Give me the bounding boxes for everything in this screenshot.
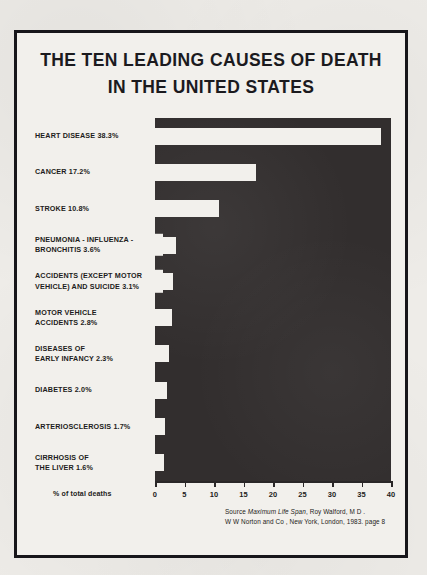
axis-tick-label: 35 (357, 490, 366, 499)
title-line-1: THE TEN LEADING CAUSES OF DEATH (40, 50, 382, 70)
axis-tick-label: 5 (182, 490, 186, 499)
category-label: ARTERIOSCLEROSIS 1.7% (35, 421, 165, 431)
category-label: DIABETES 2.0% (35, 385, 165, 395)
axis-tick-label: 15 (239, 490, 248, 499)
bar (155, 128, 381, 145)
axis-tick (155, 481, 157, 487)
category-label: ACCIDENTS (EXCEPT MOTOR VEHICLE) AND SUI… (35, 270, 163, 292)
axis-tick (214, 481, 216, 487)
bar (155, 164, 256, 181)
bar-chart-plot (155, 118, 391, 481)
axis-tick-label: 10 (210, 490, 219, 499)
category-label: HEART DISEASE 38.3% (35, 131, 165, 141)
source-citation: Source Maximum Life Span, Roy Walford, M… (225, 507, 415, 526)
source-book-title: Maximum Life Span (248, 508, 306, 515)
axis-tick-label: 0 (153, 490, 157, 499)
category-label: CIRRHOSIS OF THE LIVER 1.6% (35, 453, 165, 473)
axis-tick (332, 481, 334, 487)
axis-tick-label: 25 (298, 490, 307, 499)
axis-tick (185, 481, 187, 487)
category-label: STROKE 10.8% (35, 204, 165, 214)
category-label-column: HEART DISEASE 38.3%CANCER 17.2%STROKE 10… (35, 118, 159, 481)
figure-page: THE TEN LEADING CAUSES OF DEATH IN THE U… (0, 0, 427, 575)
page-title: THE TEN LEADING CAUSES OF DEATH IN THE U… (17, 47, 405, 101)
axis-tick (362, 481, 364, 487)
axis-tick-label: 20 (269, 490, 278, 499)
category-label: CANCER 17.2% (35, 167, 165, 177)
figure-frame: THE TEN LEADING CAUSES OF DEATH IN THE U… (14, 30, 408, 558)
category-label: PNEUMONIA - INFLUENZA - BRONCHITIS 3.6% (35, 234, 163, 256)
axis-tick-label: 40 (387, 490, 396, 499)
source-prefix: Source (225, 508, 248, 515)
axis-caption: % of total deaths (53, 490, 112, 497)
axis-tick-label: 30 (328, 490, 337, 499)
axis-tick (303, 481, 305, 487)
source-author: , Roy Walford, M D . (306, 508, 365, 515)
axis-tick (273, 481, 275, 487)
axis-tick (244, 481, 246, 487)
title-line-2: IN THE UNITED STATES (17, 74, 405, 101)
axis-tick (391, 481, 393, 487)
category-label: MOTOR VEHICLE ACCIDENTS 2.8% (35, 307, 165, 327)
source-publisher: W W Norton and Co , New York, London, 19… (225, 518, 385, 525)
category-label: DISEASES OF EARLY INFANCY 2.3% (35, 344, 165, 364)
